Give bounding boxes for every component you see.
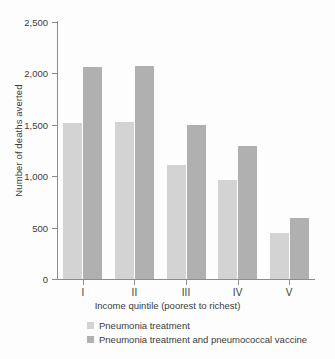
legend-item: Pneumonia treatment <box>0 318 335 332</box>
chart-legend: Pneumonia treatmentPneumonia treatment a… <box>0 318 335 346</box>
x-tick-label: V <box>286 287 293 298</box>
bar <box>270 233 289 279</box>
x-tick-label: II <box>132 287 138 298</box>
legend-item-label: Pneumonia treatment <box>99 320 190 331</box>
x-tick-label: III <box>182 287 190 298</box>
legend-swatch-icon <box>87 322 94 329</box>
y-tick-label: 1,000 <box>4 171 48 182</box>
bar <box>167 165 186 279</box>
legend-item: Pneumonia treatment and pneumococcal vac… <box>0 332 335 346</box>
bar <box>115 122 134 279</box>
y-tick-label: 2,000 <box>4 68 48 79</box>
bar <box>83 67 102 279</box>
x-tick-mark <box>186 280 187 285</box>
x-tick-mark <box>238 280 239 285</box>
bar-chart: Number of deaths averted 05001,0001,5002… <box>0 0 335 359</box>
x-axis-title: Income quintile (poorest to richest) <box>0 300 335 311</box>
x-axis-title-label: Income quintile (poorest to richest) <box>95 300 241 311</box>
y-tick-label: 2,500 <box>4 17 48 28</box>
y-axis-title: Number of deaths averted <box>8 0 28 280</box>
y-tick-label: 500 <box>4 222 48 233</box>
plot-area <box>57 22 315 279</box>
x-tick-mark <box>83 280 84 285</box>
x-tick-label: I <box>81 287 84 298</box>
legend-swatch-icon <box>87 336 94 343</box>
bar <box>63 123 82 279</box>
bar <box>238 146 257 279</box>
bar <box>187 125 206 279</box>
x-tick-label: IV <box>233 287 242 298</box>
legend-item-label: Pneumonia treatment and pneumococcal vac… <box>99 334 307 345</box>
x-tick-mark <box>134 280 135 285</box>
y-tick-mark <box>52 279 57 280</box>
bar <box>290 218 309 279</box>
x-tick-mark <box>289 280 290 285</box>
bar <box>135 66 154 279</box>
y-tick-label: 1,500 <box>4 119 48 130</box>
bar <box>218 180 237 279</box>
y-tick-label: 0 <box>4 274 48 285</box>
